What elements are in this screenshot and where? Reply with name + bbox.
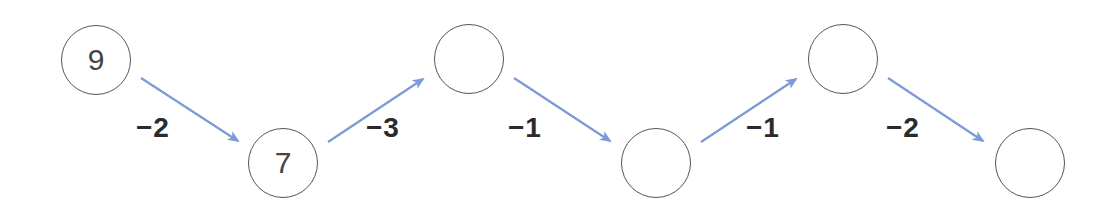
step-label-1: −2	[136, 112, 170, 144]
node-4-blank[interactable]	[621, 128, 691, 198]
number-chain-diagram: 9 7 −2 −3 −1 −1 −2	[0, 0, 1113, 214]
arrows-layer	[0, 0, 1113, 214]
node-1-value: 9	[88, 43, 105, 77]
node-3-blank[interactable]	[434, 24, 504, 94]
node-2: 7	[248, 128, 318, 198]
step-label-3: −1	[508, 112, 542, 144]
node-1: 9	[61, 25, 131, 95]
node-2-value: 7	[275, 146, 292, 180]
step-label-5: −2	[886, 112, 920, 144]
node-6-blank[interactable]	[995, 128, 1065, 198]
node-5-blank[interactable]	[808, 24, 878, 94]
step-label-4: −1	[746, 112, 780, 144]
step-label-2: −3	[366, 112, 400, 144]
